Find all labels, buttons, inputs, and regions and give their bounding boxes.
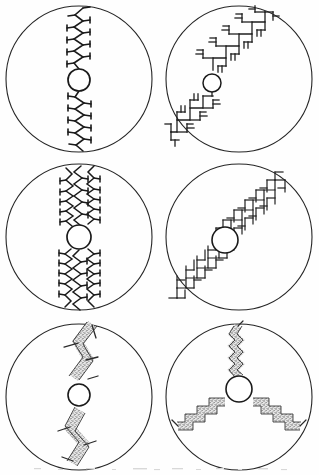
stippled-band-upper-arm — [69, 322, 97, 380]
stippled-band-lower-arm — [65, 407, 89, 466]
panel-6-bottom-right — [159, 316, 319, 475]
panel-4-middle-right — [159, 158, 319, 316]
stippled-arm-lower-left — [177, 398, 225, 430]
panel-3-middle-left — [0, 158, 159, 316]
panel-2-top-right — [159, 0, 319, 158]
nucleus-circle — [203, 74, 221, 92]
nucleus-circle — [212, 227, 238, 253]
stippled-arm-lower-right — [253, 398, 301, 430]
nucleus-circle — [226, 376, 252, 402]
nucleus-circle — [67, 225, 91, 249]
panel-5-bottom-left — [0, 316, 159, 475]
stippled-arm-up — [229, 326, 243, 377]
outer-boundary-circle — [166, 6, 312, 152]
nucleus-circle — [68, 69, 90, 91]
panel-1-top-left — [0, 0, 159, 158]
figure-panel-grid — [0, 0, 319, 475]
nucleus-circle — [68, 384, 90, 406]
